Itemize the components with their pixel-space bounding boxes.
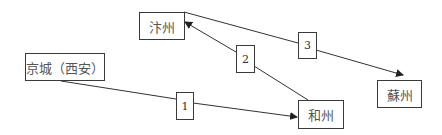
- node-hezhou: 和州: [298, 100, 344, 129]
- edge-label-3: 3: [298, 32, 317, 59]
- edge-label-1: 1: [176, 92, 194, 120]
- edge-3-arrow: [316, 50, 403, 75]
- node-label: 京城（西安）: [26, 58, 104, 77]
- node-jingcheng: 京城（西安）: [25, 53, 105, 81]
- edge-label-text: 2: [242, 53, 249, 66]
- node-bianzhou: 汴州: [139, 12, 185, 40]
- node-label: 汴州: [149, 17, 175, 36]
- edge-1-arrow: [193, 103, 297, 117]
- edge-label-text: 3: [304, 39, 311, 52]
- edge-2-arrow: [185, 22, 236, 52]
- edge-label-text: 1: [182, 100, 189, 113]
- node-label: 蘇州: [387, 85, 413, 104]
- edge-label-2: 2: [236, 45, 255, 73]
- node-suzhou: 蘇州: [377, 80, 422, 108]
- edge-2-segment-a: [254, 66, 308, 100]
- node-label: 和州: [308, 105, 334, 124]
- edge-3-segment-a: [184, 12, 298, 43]
- edge-1-segment-a: [61, 81, 176, 99]
